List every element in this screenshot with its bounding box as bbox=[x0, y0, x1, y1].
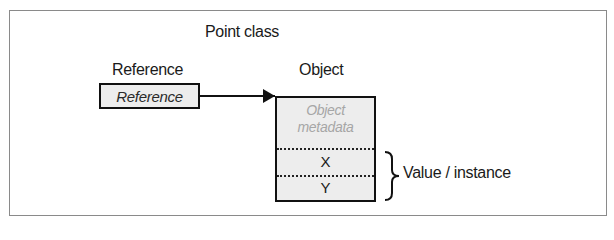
object-heading: Object bbox=[299, 61, 343, 79]
reference-heading: Reference bbox=[112, 61, 183, 79]
metadata-line-2: metadata bbox=[277, 119, 374, 136]
diagram-title: Point class bbox=[205, 23, 279, 41]
metadata-line-1: Object bbox=[277, 102, 374, 119]
field-x: X bbox=[277, 153, 374, 170]
dotted-divider bbox=[277, 148, 374, 150]
object-metadata: Object metadata bbox=[277, 102, 374, 136]
reference-box-label: Reference bbox=[116, 88, 183, 105]
arrow-head-icon bbox=[263, 89, 275, 103]
field-y: Y bbox=[277, 179, 374, 196]
reference-box: Reference bbox=[99, 83, 200, 109]
curly-brace-icon bbox=[383, 150, 401, 202]
value-instance-label: Value / instance bbox=[403, 164, 511, 182]
object-box: Object metadata X Y bbox=[275, 96, 376, 202]
dotted-divider bbox=[277, 175, 374, 177]
